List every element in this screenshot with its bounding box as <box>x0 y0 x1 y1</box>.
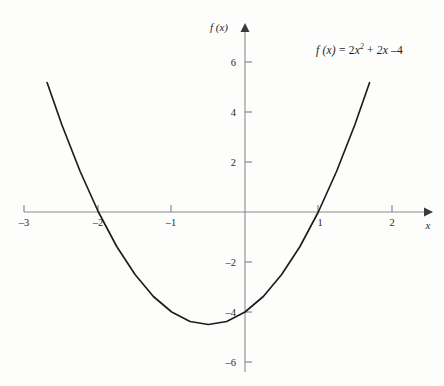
figure-container: –3 –2 –1 1 2 6 4 2 –2 –4 –6 x f (x) f (x… <box>0 0 444 386</box>
x-axis-label: x <box>425 219 431 231</box>
equation-constant: 4 <box>397 44 403 56</box>
equation-linear-term: 2x <box>377 44 388 56</box>
equation-function-name: f (x) <box>316 44 336 56</box>
parabola-plot: –3 –2 –1 1 2 6 4 2 –2 –4 –6 x f (x) <box>0 0 444 386</box>
x-tick-label-2: 2 <box>389 217 394 228</box>
equation-annotation: f (x) = 2x2 + 2x –4 <box>316 42 403 56</box>
parabola-curve <box>47 83 370 325</box>
y-tick-label--2: –2 <box>225 257 237 268</box>
x-tick-marks <box>24 205 392 212</box>
x-tick-label-1: 1 <box>317 217 322 228</box>
equation-plus-operator: + <box>367 44 374 56</box>
x-axis-arrowhead <box>424 208 433 217</box>
equation-equals: = <box>339 44 346 56</box>
y-tick-label-6: 6 <box>231 57 236 68</box>
x-tick-label--3: –3 <box>18 217 30 228</box>
y-axis-label: f (x) <box>210 21 228 34</box>
y-tick-label--6: –6 <box>225 357 237 368</box>
y-tick-label-4: 4 <box>231 107 237 118</box>
y-tick-label-2: 2 <box>231 157 236 168</box>
x-tick-label--1: –1 <box>165 217 177 228</box>
y-axis-arrowhead <box>241 23 250 32</box>
